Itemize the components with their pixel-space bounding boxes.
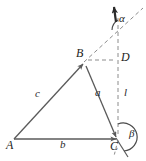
direction-arrow-alpha [114,7,116,22]
vertex-label-b: B [76,47,83,59]
diagram-canvas [0,0,146,161]
side-c-vector [14,64,83,139]
vertex-label-d: D [121,51,130,63]
construction-ray-dashed [84,8,143,62]
side-label-c: c [35,88,40,99]
side-label-a: a [95,87,101,98]
side-label-b: b [60,139,66,150]
side-label-l: l [124,87,127,98]
geometry-diagram: A B C D c b a l α β [0,0,146,161]
vertex-label-c: C [110,140,118,152]
vertex-label-a: A [6,139,13,151]
angle-label-alpha: α [119,13,125,24]
side-a-vector [86,66,116,137]
angle-label-beta: β [129,128,134,139]
